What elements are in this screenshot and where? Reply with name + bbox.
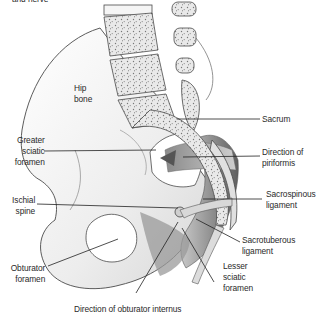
label-truncated-top: and nerve: [12, 0, 48, 4]
label-hip-bone: Hip bone: [74, 82, 92, 104]
label-sacrospinous-ligament: Sacrospinous ligament: [266, 188, 316, 210]
label-sacrotuberous-ligament: Sacrotuberous ligament: [242, 234, 295, 256]
obturator-foramen-shape: [86, 214, 137, 262]
label-lesser-sciatic-foramen: Lesser sciatic foramen: [223, 260, 253, 293]
label-direction-obturator-internus: Direction of obturator internus: [74, 303, 181, 314]
label-direction-piriformis: Direction of piriformis: [262, 146, 303, 168]
label-ischial-spine: Ischial spine: [7, 194, 35, 216]
label-obturator-foramen: Obturator foramen: [10, 262, 45, 284]
label-sacrum: Sacrum: [262, 113, 290, 124]
label-greater-sciatic-foramen: Greater sciatic foramen: [6, 134, 45, 167]
